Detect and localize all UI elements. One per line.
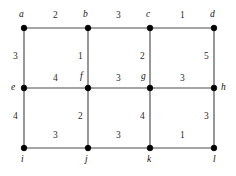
edge-weight-cg: 2 — [140, 52, 145, 62]
graph-vertex-c — [147, 25, 153, 31]
edge-weight-dh: 5 — [204, 52, 209, 62]
edge-weight-gh: 3 — [180, 74, 185, 84]
vertex-label-c: c — [146, 10, 150, 20]
edge-weight-ef: 4 — [53, 74, 58, 84]
edge-weight-hl: 3 — [204, 112, 209, 122]
vertex-label-h: h — [221, 83, 226, 93]
edge-weight-bc: 3 — [116, 11, 121, 21]
edge-weight-bf: 1 — [78, 52, 83, 62]
graph-vertex-h — [211, 85, 217, 91]
graph-canvas — [0, 0, 236, 176]
vertex-label-i: i — [21, 155, 24, 165]
vertex-label-d: d — [210, 10, 215, 20]
vertex-label-j: j — [85, 155, 88, 165]
graph-vertex-a — [21, 25, 27, 31]
vertex-label-b: b — [83, 10, 88, 20]
edge-weight-fj: 2 — [78, 112, 83, 122]
graph-vertex-b — [85, 25, 91, 31]
graph-vertex-g — [147, 85, 153, 91]
vertex-label-f: f — [80, 72, 83, 82]
graph-vertex-d — [211, 25, 217, 31]
edge-weight-jk: 3 — [116, 131, 121, 141]
vertex-label-k: k — [147, 155, 151, 165]
edge-weight-ij: 3 — [53, 131, 58, 141]
edge-weight-gk: 4 — [140, 112, 145, 122]
vertex-label-a: a — [19, 10, 24, 20]
edge-weight-cd: 1 — [180, 11, 185, 21]
graph-figure: 23131254334243331abcdefghijkl — [0, 0, 236, 176]
graph-vertex-j — [85, 145, 91, 151]
edge-weight-ei: 4 — [13, 112, 18, 122]
vertex-label-e: e — [11, 83, 15, 93]
graph-vertex-e — [21, 85, 27, 91]
edge-weight-ab: 2 — [53, 11, 58, 21]
graph-vertex-f — [85, 85, 91, 91]
vertex-label-l: l — [213, 155, 216, 165]
graph-vertex-k — [147, 145, 153, 151]
graph-vertex-l — [211, 145, 217, 151]
edge-weight-fg: 3 — [116, 74, 121, 84]
graph-vertex-i — [21, 145, 27, 151]
edge-weight-kl: 1 — [180, 131, 185, 141]
vertex-label-g: g — [141, 72, 146, 82]
edge-weight-ae: 3 — [13, 52, 18, 62]
